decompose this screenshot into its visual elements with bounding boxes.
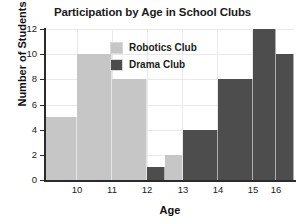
legend-item-robotics-club: Robotics Club bbox=[110, 40, 197, 55]
bar-11-12 bbox=[112, 79, 147, 180]
bar-10-11 bbox=[77, 54, 112, 180]
bar-9_5-10 bbox=[46, 117, 77, 180]
x-tick-label-12: 12 bbox=[135, 184, 159, 195]
x-tick-label-16: 16 bbox=[264, 184, 288, 195]
legend-item-drama-club: Drama Club bbox=[110, 57, 197, 72]
legend-label: Robotics Club bbox=[129, 42, 197, 53]
y-tick-mark bbox=[40, 79, 45, 80]
y-tick-mark bbox=[40, 180, 45, 181]
y-tick-label-0: 0 bbox=[17, 174, 37, 185]
x-tick-label-14: 14 bbox=[206, 184, 230, 195]
y-tick-mark bbox=[40, 54, 45, 55]
x-axis-line bbox=[44, 180, 296, 182]
y-tick-label-12: 12 bbox=[17, 23, 37, 34]
y-tick-mark bbox=[40, 130, 45, 131]
bar-12-12_5 bbox=[147, 167, 165, 180]
x-tick-label-10: 10 bbox=[65, 184, 89, 195]
x-tick-label-11: 11 bbox=[100, 184, 124, 195]
bar-14-15 bbox=[218, 79, 253, 180]
bar-13-14 bbox=[183, 130, 218, 180]
chart-legend: Robotics ClubDrama Club bbox=[110, 40, 197, 74]
y-tick-mark bbox=[40, 105, 45, 106]
bar-12_5-13 bbox=[165, 155, 183, 180]
y-tick-mark bbox=[40, 155, 45, 156]
y-tick-mark bbox=[40, 29, 45, 30]
bar-15-16 bbox=[253, 29, 276, 180]
legend-swatch-icon bbox=[110, 42, 123, 54]
y-tick-label-4: 4 bbox=[17, 124, 37, 135]
chart-container: Participation by Age in School Clubs Num… bbox=[0, 0, 305, 224]
legend-swatch-icon bbox=[110, 59, 123, 71]
y-tick-label-10: 10 bbox=[17, 48, 37, 59]
chart-title: Participation by Age in School Clubs bbox=[0, 6, 305, 18]
y-axis-label: Number of Students bbox=[16, 0, 28, 130]
y-tick-label-6: 6 bbox=[17, 99, 37, 110]
y-tick-label-2: 2 bbox=[17, 149, 37, 160]
bar-16-16_5 bbox=[276, 54, 294, 180]
y-tick-label-8: 8 bbox=[17, 73, 37, 84]
x-axis-label: Age bbox=[46, 204, 294, 216]
x-tick-label-15: 15 bbox=[241, 184, 265, 195]
legend-label: Drama Club bbox=[129, 59, 185, 70]
x-tick-label-13: 13 bbox=[171, 184, 195, 195]
